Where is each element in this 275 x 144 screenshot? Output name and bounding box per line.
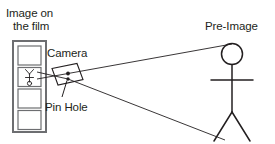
film-frame-3	[18, 89, 41, 108]
figure-head	[222, 44, 243, 65]
camera-body	[52, 64, 83, 98]
label-camera: Camera	[47, 47, 88, 59]
ray-head-to-pinhole	[68, 44, 232, 74]
diagram-canvas: Image on the film Camera Pin Hole Pre-Im…	[0, 0, 275, 144]
pinhole-camera-diagram: Image on the film Camera Pin Hole Pre-Im…	[0, 0, 275, 144]
figure-leg-right	[232, 112, 250, 141]
pre-image-stick-figure	[211, 44, 253, 142]
label-pin-hole: Pin Hole	[45, 101, 88, 113]
film-frame-4	[18, 111, 41, 130]
ray-feet-to-pinhole	[68, 79, 225, 140]
label-pre-image: Pre-Image	[205, 20, 258, 32]
film-frame-1	[18, 46, 41, 65]
figure-leg-left	[214, 112, 232, 141]
label-image-on-film-line2: the film	[13, 20, 49, 32]
film-strip	[13, 41, 46, 132]
label-image-on-film-line1: Image on	[6, 7, 53, 19]
